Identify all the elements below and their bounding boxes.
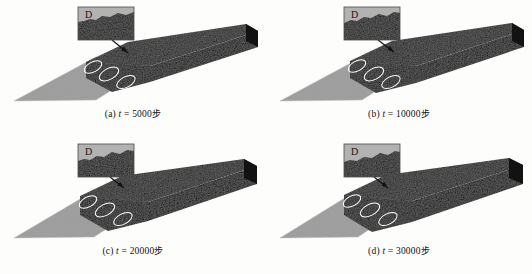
panel-a-caption: (a) t = 5000步 xyxy=(0,108,266,120)
zoom-region-label: D xyxy=(85,146,92,157)
panel-a-canvas: D xyxy=(0,0,266,112)
panel-d-canvas: D xyxy=(266,137,532,249)
zoom-inset-box: D xyxy=(344,7,400,40)
panel-a-index: (a) xyxy=(105,109,116,119)
panel-d-caption: (d) t = 30000步 xyxy=(266,245,532,257)
panel-a-scene: D xyxy=(0,0,266,112)
zoom-inset-box: D xyxy=(78,144,134,177)
zoom-inset-box: D xyxy=(78,7,134,40)
panel-d-unit: 步 xyxy=(421,246,430,256)
panel-c-scene: D xyxy=(0,137,266,249)
panel-d-value: 30000 xyxy=(396,246,421,256)
panel-a-unit: 步 xyxy=(152,109,161,119)
zoom-inset-box: D xyxy=(344,144,400,177)
panel-b: D (b) t = 10000步 xyxy=(266,0,532,137)
panel-a: D (a) t = 5000步 xyxy=(0,0,266,137)
figure-container: D (a) t = 5000步 xyxy=(0,0,532,274)
panel-c-unit: 步 xyxy=(154,246,163,256)
panel-b-caption: (b) t = 10000步 xyxy=(266,108,532,120)
panel-d-scene: D xyxy=(266,137,532,249)
panel-c: D (c) t = 20000步 xyxy=(0,137,266,274)
zoom-region-label: D xyxy=(351,9,358,20)
panel-b-scene: D xyxy=(266,0,532,112)
panel-b-value: 10000 xyxy=(396,109,421,119)
zoom-region-label: D xyxy=(351,146,358,157)
zoom-region-label: D xyxy=(85,9,92,20)
panel-c-value: 20000 xyxy=(130,246,155,256)
panel-c-index: (c) xyxy=(102,246,113,256)
panel-c-caption: (c) t = 20000步 xyxy=(0,245,266,257)
panel-d-index: (d) xyxy=(368,246,380,256)
panel-b-canvas: D xyxy=(266,0,532,112)
panel-c-canvas: D xyxy=(0,137,266,249)
panel-b-unit: 步 xyxy=(421,109,430,119)
panel-b-index: (b) xyxy=(368,109,380,119)
panel-a-value: 5000 xyxy=(132,109,152,119)
panel-d: D (d) t = 30000步 xyxy=(266,137,532,274)
